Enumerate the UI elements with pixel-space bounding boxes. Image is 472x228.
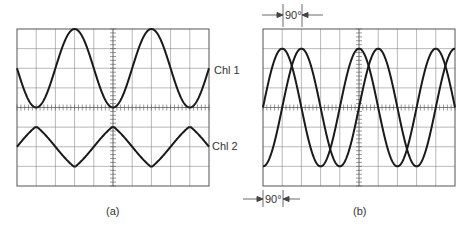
- caption-a: (a): [106, 205, 119, 217]
- channel-1-label: Chl 1: [214, 64, 240, 76]
- scope-screen-a: [17, 29, 209, 186]
- oscilloscope-figure: Chl 1 Chl 2 (a) (b) 90° 90°: [0, 0, 472, 228]
- scope-screen-b: [263, 29, 455, 186]
- phase-label-bottom: 90°: [265, 193, 282, 205]
- phase-label-top: 90°: [285, 9, 302, 21]
- channel-2-label: Chl 2: [212, 140, 238, 152]
- caption-b: (b): [353, 205, 366, 217]
